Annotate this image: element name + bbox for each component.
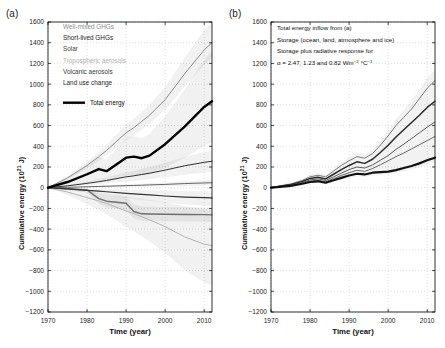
y-tick-label: −200: [29, 205, 44, 212]
x-tick-label: 2000: [381, 317, 396, 324]
y-tick-label: 1400: [252, 39, 267, 46]
x-tick-label: 1970: [41, 317, 56, 324]
y-tick-label: −1000: [248, 288, 267, 295]
y-tick-label: 1000: [252, 81, 267, 88]
legend-label: Tropospheric aerosols: [63, 57, 126, 65]
x-tick-label: 1980: [80, 317, 95, 324]
y-tick-label: −800: [252, 267, 267, 274]
legend-label: Short-lived GHGs: [63, 34, 113, 41]
y-tick-label: 400: [256, 143, 267, 150]
y-tick-label: −600: [252, 246, 267, 253]
legend-label: Total energy: [90, 99, 126, 107]
legend-a: Well-mixed GHGsShort-lived GHGsSolarTrop…: [63, 23, 126, 107]
panel-b: (b) Cumulative energy (1021 J) Time (yea…: [223, 0, 445, 348]
y-tick-label: −1200: [25, 308, 44, 315]
x-tick-label: 1990: [342, 317, 357, 324]
y-tick-label: −600: [29, 246, 44, 253]
uncertainty-band-b: [271, 70, 435, 189]
y-tick-label: 1600: [29, 18, 44, 25]
y-tick-label: 600: [33, 122, 44, 129]
y-tick-label: −400: [252, 226, 267, 233]
y-tick-label: 0: [40, 184, 44, 191]
y-tick-label: 200: [33, 163, 44, 170]
y-tick-label: −200: [252, 205, 267, 212]
figure-root: (a) Cumulative energy (1021 J) Time (yea…: [0, 0, 445, 348]
x-tick-label: 2010: [197, 317, 212, 324]
legend-label: Storage plus radiative response for: [277, 47, 373, 54]
y-tick-label: 1000: [29, 81, 44, 88]
y-tick-label: 200: [256, 163, 267, 170]
x-tick-label: 1990: [119, 317, 134, 324]
x-tick-label: 2000: [158, 317, 173, 324]
legend-label: Volcanic aerosols: [63, 68, 113, 75]
y-tick-label: 1200: [252, 60, 267, 67]
y-tick-label: −1000: [25, 288, 44, 295]
y-tick-label: 1400: [29, 39, 44, 46]
y-tick-label: 800: [33, 101, 44, 108]
y-tick-label: −1200: [248, 308, 267, 315]
y-tick-label: −400: [29, 226, 44, 233]
y-tick-label: 0: [263, 184, 267, 191]
y-tick-label: 1200: [29, 60, 44, 67]
legend-label: Well-mixed GHGs: [63, 23, 114, 30]
legend-label: Land use change: [63, 79, 112, 87]
panel-a-plot: −1200−1000−800−600−400−20002004006008001…: [0, 0, 222, 348]
legend-label: Solar: [63, 45, 79, 52]
panel-b-plot: −1200−1000−800−600−400−20002004006008001…: [223, 0, 445, 348]
y-tick-label: 800: [256, 101, 267, 108]
x-tick-label: 1980: [303, 317, 318, 324]
panel-a: (a) Cumulative energy (1021 J) Time (yea…: [0, 0, 222, 348]
y-tick-label: −800: [29, 267, 44, 274]
legend-label: Total energy inflow from (a): [277, 24, 352, 31]
y-tick-label: 600: [256, 122, 267, 129]
x-tick-label: 2010: [420, 317, 435, 324]
legend-label: Storage (ocean, land, atmosphere and ice…: [277, 36, 394, 43]
legend-alpha-label: α = 2.47, 1.23 and 0.82 Wm−2 °C−1: [277, 58, 373, 66]
y-tick-label: 1600: [252, 18, 267, 25]
legend-b: Total energy inflow from (a)Storage (oce…: [277, 24, 394, 66]
y-tick-label: 400: [33, 143, 44, 150]
x-tick-label: 1970: [264, 317, 279, 324]
